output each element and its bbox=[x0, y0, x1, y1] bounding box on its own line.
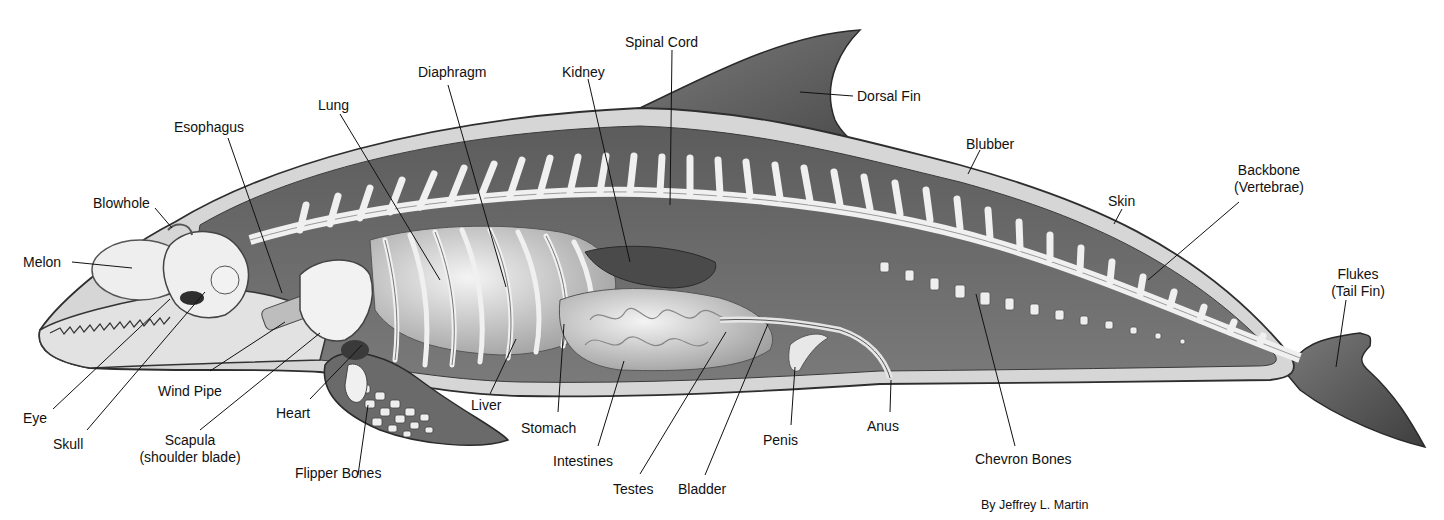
tail-flukes bbox=[1285, 333, 1425, 447]
label-intestines: Intestines bbox=[553, 453, 613, 470]
dolphin-anatomy-diagram: Spinal Cord Dorsal Fin Kidney Diaphragm … bbox=[0, 0, 1444, 520]
label-spinal-cord: Spinal Cord bbox=[625, 34, 698, 51]
label-scapula-line1: Scapula bbox=[120, 432, 260, 449]
label-blubber: Blubber bbox=[966, 136, 1014, 153]
label-bladder: Bladder bbox=[678, 481, 726, 498]
label-chevron-bones: Chevron Bones bbox=[975, 451, 1072, 468]
label-anus: Anus bbox=[867, 418, 899, 435]
label-flukes-line2: (Tail Fin) bbox=[1320, 283, 1396, 300]
label-kidney: Kidney bbox=[562, 64, 605, 81]
label-eye: Eye bbox=[23, 410, 47, 427]
label-diaphragm: Diaphragm bbox=[418, 64, 486, 81]
label-scapula: Scapula (shoulder blade) bbox=[120, 432, 260, 466]
label-esophagus: Esophagus bbox=[174, 119, 244, 136]
label-melon: Melon bbox=[23, 254, 61, 271]
label-backbone: Backbone (Vertebrae) bbox=[1224, 162, 1314, 196]
label-dorsal-fin: Dorsal Fin bbox=[857, 88, 921, 105]
label-blowhole: Blowhole bbox=[93, 195, 150, 212]
heart-organ bbox=[341, 340, 369, 360]
label-backbone-line2: (Vertebrae) bbox=[1224, 179, 1314, 196]
label-backbone-line1: Backbone bbox=[1224, 162, 1314, 179]
label-skull: Skull bbox=[53, 436, 83, 453]
label-flukes-line1: Flukes bbox=[1320, 266, 1396, 283]
label-flukes: Flukes (Tail Fin) bbox=[1320, 266, 1396, 300]
author-credit: By Jeffrey L. Martin bbox=[981, 498, 1088, 512]
label-heart: Heart bbox=[276, 405, 310, 422]
label-flipper-bones: Flipper Bones bbox=[295, 465, 381, 482]
label-wind-pipe: Wind Pipe bbox=[158, 383, 222, 400]
label-stomach: Stomach bbox=[521, 420, 576, 437]
label-liver: Liver bbox=[471, 397, 501, 414]
label-scapula-line2: (shoulder blade) bbox=[120, 449, 260, 466]
label-testes: Testes bbox=[613, 481, 653, 498]
label-skin: Skin bbox=[1108, 193, 1135, 210]
label-penis: Penis bbox=[763, 432, 798, 449]
label-lung: Lung bbox=[318, 97, 349, 114]
